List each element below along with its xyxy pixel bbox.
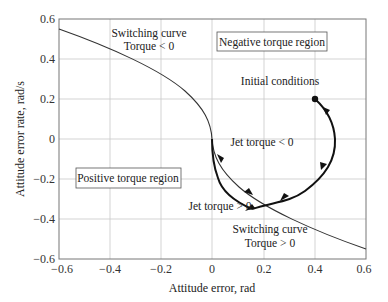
y-axis-label: Attitude error rate, rad/s: [13, 81, 27, 197]
x-tick: −0.2: [150, 262, 172, 276]
initial-condition-point: [312, 96, 318, 102]
jet-torque-negative-label: Jet torque < 0: [230, 136, 293, 149]
jet-torque-positive-label: Jet torque > 0: [188, 200, 251, 213]
y-tick: 0.2: [40, 92, 55, 106]
trajectory-negative-torque: [252, 99, 335, 209]
switching-curve-neg-sublabel: Torque < 0: [124, 40, 175, 53]
switching-curve-pos-sublabel: Torque > 0: [245, 237, 296, 250]
trajectory-positive-torque: [212, 139, 252, 209]
x-tick: 0.2: [257, 262, 272, 276]
phase-plane-chart: 0.6 0.4 0.2 0 −0.2 −0.4 −0.6 −0.6 −0.4 −…: [0, 0, 388, 302]
x-axis-label: Attitude error, rad: [169, 281, 255, 295]
x-tick: 0.4: [308, 262, 323, 276]
direction-arrows: [217, 107, 330, 211]
positive-region-label: Positive torque region: [77, 172, 179, 185]
y-tick: 0.4: [40, 52, 55, 66]
x-tick: 0.6: [357, 262, 372, 276]
y-tick: 0.6: [40, 12, 55, 26]
y-tick: −0.2: [33, 172, 55, 186]
switching-curve-pos-label: Switching curve: [232, 223, 307, 236]
switching-curve-neg-label: Switching curve: [111, 27, 186, 40]
negative-region-label: Negative torque region: [219, 36, 325, 49]
y-tick: 0: [49, 132, 55, 146]
x-tick: −0.4: [99, 262, 121, 276]
x-tick: −0.6: [51, 262, 73, 276]
x-tick: 0: [209, 262, 215, 276]
y-tick: −0.4: [33, 212, 55, 226]
initial-conditions-label: Initial conditions: [241, 75, 320, 87]
x-tick-labels: −0.6 −0.4 −0.2 0 0.2 0.4 0.6: [51, 262, 371, 276]
y-tick-labels: 0.6 0.4 0.2 0 −0.2 −0.4 −0.6: [33, 12, 55, 266]
